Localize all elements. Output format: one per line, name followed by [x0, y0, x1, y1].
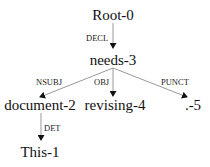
node-needs: needs-3	[90, 52, 137, 68]
node-punct: .-5	[185, 97, 201, 113]
node-revising: revising-4	[85, 97, 146, 113]
node-root: Root-0	[92, 7, 134, 23]
dependency-tree: DECL NSUBJ OBJ PUNCT DET Root-0 needs-3 …	[0, 0, 210, 167]
edge-label-punct: PUNCT	[161, 77, 190, 87]
edge-label-obj: OBJ	[94, 77, 110, 87]
node-document: document-2	[4, 97, 76, 113]
edge-label-det: DET	[44, 123, 61, 133]
node-this: This-1	[20, 144, 59, 160]
edge-label-nsubj: NSUBJ	[36, 77, 63, 87]
edge-label-decl: DECL	[86, 33, 108, 43]
